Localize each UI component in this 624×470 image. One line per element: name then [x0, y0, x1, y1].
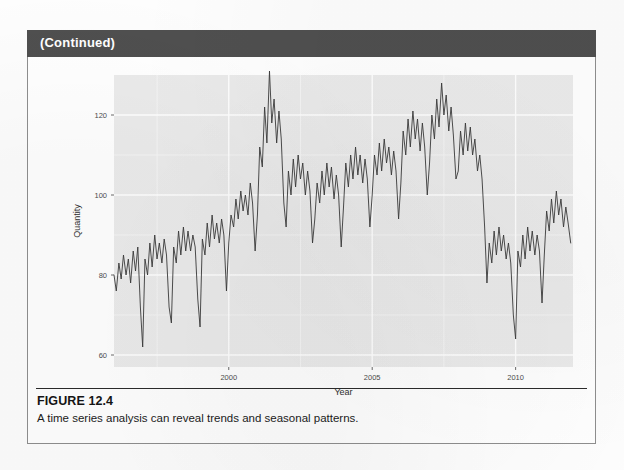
ytick-label: 60: [99, 351, 107, 360]
ytick-label: 120: [94, 111, 107, 120]
caption-divider: [36, 388, 587, 389]
figure-box: 6080100120200020052010YearQuantity FIGUR…: [27, 30, 596, 444]
figure-number: FIGURE 12.4: [37, 394, 577, 408]
chart-panel-background: [114, 75, 573, 367]
chart-area: 6080100120200020052010YearQuantity: [28, 57, 595, 415]
continued-label: (Continued): [40, 35, 115, 50]
figure-caption-text: A time series analysis can reveal trends…: [37, 411, 577, 425]
time-series-chart: 6080100120200020052010YearQuantity: [28, 57, 595, 415]
figure-caption-block: FIGURE 12.4 A time series analysis can r…: [37, 394, 577, 425]
y-axis-title: Quantity: [72, 204, 82, 238]
ytick-label: 100: [94, 191, 107, 200]
continued-header-bar: (Continued): [27, 30, 596, 57]
xtick-label: 2005: [364, 373, 381, 382]
xtick-label: 2000: [220, 373, 237, 382]
ytick-label: 80: [99, 271, 107, 280]
xtick-label: 2010: [507, 373, 524, 382]
